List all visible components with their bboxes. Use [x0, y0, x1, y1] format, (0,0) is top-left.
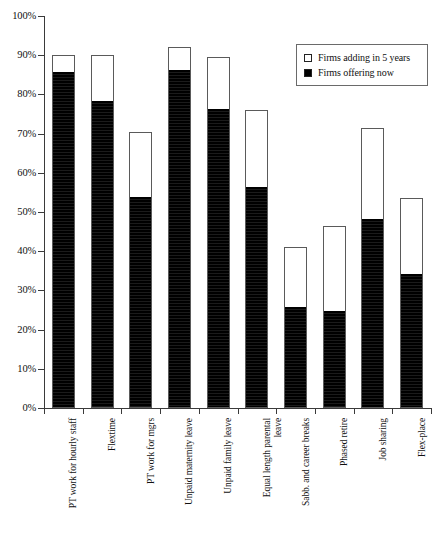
y-axis-tick-label: 30% — [0, 285, 36, 295]
x-axis-tick — [121, 408, 122, 414]
bar-stack — [400, 198, 423, 408]
x-axis-tick — [392, 408, 393, 414]
bar-segment-offering-now — [130, 197, 151, 407]
x-axis-category-label: PT work for mgrs — [146, 418, 160, 528]
legend-swatch-hollow-icon — [304, 54, 312, 62]
y-axis-tick-label-text: 30% — [2, 285, 36, 295]
y-axis-tick-label: 80% — [0, 89, 36, 99]
x-axis-tick — [431, 408, 432, 414]
y-axis-tick-label-text: 70% — [2, 129, 36, 139]
y-axis-tick-label-text: 90% — [2, 50, 36, 60]
y-axis-tick-label: 0% — [0, 403, 36, 413]
bar-segment-offering-now — [169, 70, 190, 407]
x-axis-category-label: PT work for hourly staff — [68, 418, 82, 528]
bar-segment-offering-now — [246, 187, 267, 407]
bar-segment-offering-now — [53, 72, 74, 407]
x-axis-tick — [199, 408, 200, 414]
bar-stack — [129, 132, 152, 408]
legend-item-offering: Firms offering now — [304, 65, 421, 80]
x-axis-category-label: Unpaid maternity leave — [184, 418, 198, 528]
bar-segment-offering-now — [401, 274, 422, 407]
x-axis-tick — [315, 408, 316, 414]
x-axis-category-label: Equal length parental leave — [262, 418, 276, 528]
y-axis-tick-label-text: 50% — [2, 207, 36, 217]
y-axis-tick-label: 70% — [0, 129, 36, 139]
y-axis-tick-label: 90% — [0, 50, 36, 60]
y-axis-tick-label-text: 60% — [2, 168, 36, 178]
bar-stack — [168, 47, 191, 408]
x-axis-tick — [238, 408, 239, 414]
bar-stack — [245, 110, 268, 408]
bar-segment-offering-now — [324, 311, 345, 407]
y-axis-tick-label: 10% — [0, 364, 36, 374]
y-axis-tick-label-text: 100% — [2, 11, 36, 21]
bar-segment-offering-now — [208, 109, 229, 407]
y-axis-tick-label: 50% — [0, 207, 36, 217]
x-axis-tick — [83, 408, 84, 414]
y-axis-tick-label-text: 10% — [2, 364, 36, 374]
bar-stack — [284, 247, 307, 408]
y-axis-tick-label-text: 20% — [2, 325, 36, 335]
y-axis-tick-label: 100% — [0, 11, 36, 21]
bar-stack — [323, 226, 346, 408]
y-axis-tick-label: 40% — [0, 246, 36, 256]
x-axis-tick — [276, 408, 277, 414]
chart-container: 0%10%20%30%40%50%60%70%80%90%100% PT wor… — [0, 0, 434, 534]
x-axis-tick — [44, 408, 45, 414]
bar-stack — [361, 128, 384, 408]
x-axis-category-label: Job sharing — [378, 418, 392, 528]
y-axis-tick-label-text: 80% — [2, 89, 36, 99]
bar-stack — [52, 55, 75, 408]
bar-segment-offering-now — [362, 219, 383, 407]
y-axis-tick-label-text: 40% — [2, 246, 36, 256]
y-axis-tick-label-text: 0% — [2, 403, 36, 413]
y-axis-tick-label: 20% — [0, 325, 36, 335]
x-axis-category-label: Sabb. and career breaks — [301, 418, 315, 528]
chart-legend: Firms adding in 5 years Firms offering n… — [296, 44, 428, 86]
bar-stack — [207, 57, 230, 408]
x-axis-category-label: Phased retire — [339, 418, 353, 528]
legend-label-adding: Firms adding in 5 years — [318, 52, 410, 63]
legend-label-offering: Firms offering now — [318, 67, 394, 78]
legend-item-adding: Firms adding in 5 years — [304, 50, 421, 65]
legend-swatch-filled-icon — [304, 69, 312, 77]
x-axis-category-label: Flex-place — [417, 418, 431, 528]
x-axis-category-label: Unpaid family leave — [223, 418, 237, 528]
x-axis-category-label: Flextime — [107, 418, 121, 528]
bar-stack — [91, 55, 114, 408]
x-axis-tick — [354, 408, 355, 414]
bar-segment-offering-now — [285, 307, 306, 407]
bar-segment-offering-now — [92, 101, 113, 407]
y-axis-tick-label: 60% — [0, 168, 36, 178]
x-axis-tick — [160, 408, 161, 414]
